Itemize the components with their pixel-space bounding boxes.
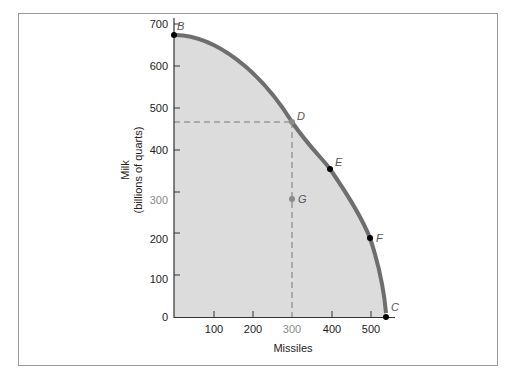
y-tick-label: 500 <box>150 102 168 114</box>
point-label-g: G <box>298 193 307 205</box>
y-tick-label: 300 <box>150 194 168 206</box>
point-label-e: E <box>335 156 343 168</box>
point-label-b: B <box>177 20 184 32</box>
y-tick-label: 0 <box>162 311 168 323</box>
point-label-f: F <box>376 232 384 244</box>
point-e <box>327 166 333 172</box>
x-tick-label: 300 <box>283 323 301 335</box>
point-f <box>367 235 373 241</box>
point-c <box>383 314 389 320</box>
x-axis-title: Missiles <box>273 342 313 354</box>
x-tick-label: 200 <box>244 323 262 335</box>
y-tick-label: 200 <box>150 233 168 245</box>
y-axis-subtitle: (billions of quarts) <box>132 127 144 214</box>
y-tick-label: 400 <box>150 144 168 156</box>
x-tick-label: 400 <box>323 323 341 335</box>
y-axis-title: Milk <box>119 160 131 180</box>
point-d <box>289 119 295 125</box>
point-b <box>171 32 177 38</box>
point-g <box>289 196 295 202</box>
point-label-d: D <box>297 110 305 122</box>
feasible-region <box>174 35 386 317</box>
point-label-c: C <box>391 301 399 313</box>
x-tick-label: 100 <box>205 323 223 335</box>
y-tick-label: 600 <box>150 60 168 72</box>
x-tick-label: 500 <box>362 323 380 335</box>
y-tick-label: 700 <box>150 18 168 30</box>
y-tick-label: 100 <box>150 273 168 285</box>
ppf-chart: 700 600 500 400 300 200 100 0 100 200 30… <box>0 0 513 379</box>
